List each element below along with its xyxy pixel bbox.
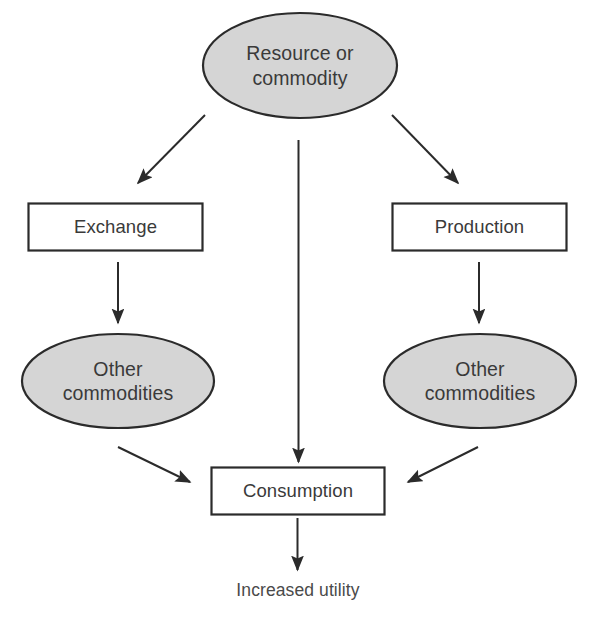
node-other-commodities-left[interactable] — [22, 334, 214, 428]
edge-other-commodities-right-to-consumption — [408, 447, 478, 482]
node-other-commodities-right[interactable] — [384, 334, 576, 428]
node-resource[interactable] — [203, 13, 397, 118]
node-production[interactable] — [392, 203, 567, 251]
node-consumption[interactable] — [211, 467, 385, 515]
flow-diagram: Resource or commodity Exchange Productio… — [0, 0, 589, 624]
edge-resource-to-production — [392, 115, 458, 183]
edge-resource-to-exchange — [138, 115, 205, 183]
node-exchange[interactable] — [28, 203, 203, 251]
edge-other-commodities-left-to-consumption — [118, 447, 190, 482]
